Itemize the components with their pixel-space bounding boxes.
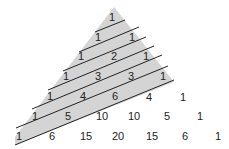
row6-entry3: 20 <box>112 131 124 142</box>
row3-entry3: 1 <box>160 71 166 82</box>
row2-entry2: 1 <box>143 51 149 62</box>
row4-entry2: 6 <box>112 91 118 102</box>
row5-entry4: 5 <box>164 111 170 122</box>
row5-entry2: 10 <box>96 111 108 122</box>
row6-entry2: 15 <box>80 131 92 142</box>
row6-entry5: 6 <box>182 131 188 142</box>
row6-entry0: 1 <box>16 131 22 142</box>
row3-entry1: 3 <box>95 71 101 82</box>
row4-entry0: 1 <box>47 91 53 102</box>
row6-entry6: 1 <box>215 131 221 142</box>
row0-entry0: 1 <box>109 12 115 23</box>
row2-entry1: 2 <box>111 51 117 62</box>
row1-entry1: 1 <box>129 32 135 43</box>
row1-entry0: 1 <box>95 32 101 43</box>
row5-entry1: 5 <box>65 111 71 122</box>
row5-entry3: 10 <box>128 111 140 122</box>
row5-entry0: 1 <box>32 111 38 122</box>
row6-entry4: 15 <box>146 131 158 142</box>
row4-entry4: 1 <box>180 92 186 103</box>
row3-entry0: 1 <box>63 71 69 82</box>
row3-entry2: 3 <box>128 71 134 82</box>
row4-entry1: 4 <box>80 91 86 102</box>
row6-entry1: 6 <box>49 131 55 142</box>
row4-entry3: 4 <box>146 92 152 103</box>
row5-entry5: 1 <box>197 111 203 122</box>
row2-entry0: 1 <box>78 51 84 62</box>
